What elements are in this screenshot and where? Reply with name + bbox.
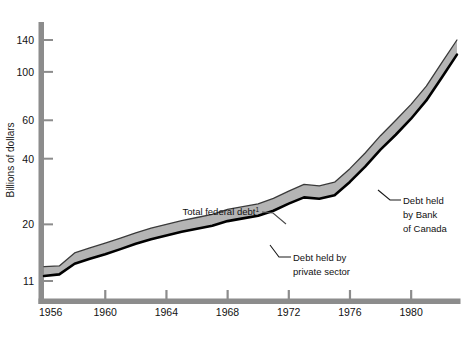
x-tick-label: 1960 <box>93 306 117 318</box>
x-tick-label: 1972 <box>277 306 301 318</box>
total-federal-debt-label: Total federal debt <box>182 206 255 217</box>
y-tick-label: 40 <box>22 153 34 165</box>
debt-area-chart: 11204060100140 1956196019641968197219761… <box>0 0 467 338</box>
y-tick-mark <box>44 158 53 160</box>
y-tick-label: 140 <box>16 34 34 46</box>
y-axis-title: Billions of dollars <box>5 122 16 197</box>
x-tick-mark <box>410 290 412 299</box>
bank-of-canada-annotation-line2: by Bank <box>403 209 438 220</box>
y-tick-mark <box>44 71 53 73</box>
y-tick-mark <box>44 39 53 41</box>
y-tick-label: 11 <box>23 275 34 287</box>
total-federal-debt-footnote-marker: 1 <box>255 206 259 213</box>
x-tick-mark <box>104 290 106 299</box>
x-tick-label: 1968 <box>216 306 240 318</box>
chart-figure: 11204060100140 1956196019641968197219761… <box>0 0 467 338</box>
bank-of-canada-annotation-line3: of Canada <box>403 223 448 234</box>
x-tick-mark <box>165 290 167 299</box>
private-sector-annotation-line2: private sector <box>293 266 350 277</box>
x-tick-label: 1976 <box>338 306 362 318</box>
x-tick-mark <box>227 290 229 299</box>
y-tick-label: 20 <box>22 218 34 230</box>
y-tick-mark <box>44 280 53 282</box>
y-tick-label: 100 <box>16 66 34 78</box>
x-tick-label: 1980 <box>399 306 423 318</box>
total-federal-debt-annotation: Total federal debt1 <box>182 206 259 218</box>
y-tick-mark <box>44 119 53 121</box>
y-tick-mark <box>44 223 53 225</box>
chart-background <box>0 0 467 338</box>
x-tick-label: 1964 <box>155 306 179 318</box>
x-axis-bar <box>39 299 461 305</box>
x-tick-label: 1956 <box>39 306 63 318</box>
private-sector-annotation-line1: Debt held by <box>293 252 347 263</box>
y-axis-bar <box>39 22 45 304</box>
bank-of-canada-annotation-line1: Debt held <box>403 195 444 206</box>
y-tick-label: 60 <box>22 114 34 126</box>
x-tick-mark <box>288 290 290 299</box>
x-tick-mark <box>349 290 351 299</box>
